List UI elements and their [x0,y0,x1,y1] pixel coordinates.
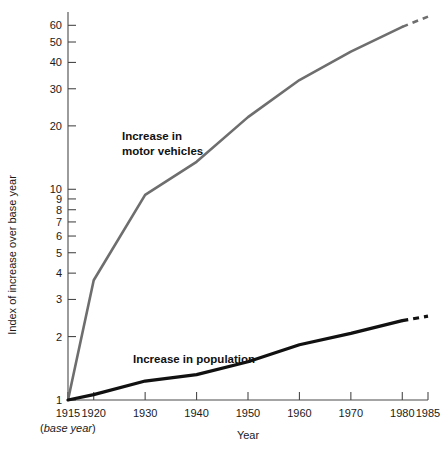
y-tick-label: 6 [56,230,62,242]
y-axis-title: Index of increase over base year [6,175,18,335]
y-tick-label: 20 [50,120,62,132]
series-line-0 [68,27,402,400]
y-tick-label: 5 [56,247,62,259]
y-tick-label: 8 [56,204,62,216]
y-tick-label: 4 [56,267,62,279]
y-axis-tick-labels: 123456789102030405060 [50,19,62,406]
series-projection-0 [402,17,428,27]
x-axis-tick-labels: 191519201930194019501960197019801985 [56,407,440,419]
y-tick-label: 50 [50,36,62,48]
y-tick-label: 3 [56,293,62,305]
base-year-note-italic: base year [44,422,94,434]
x-tick-label: 1940 [184,407,208,419]
x-axis-tick-marks [68,392,428,400]
x-tick-label: 1915 [56,407,80,419]
x-tick-label: 1930 [133,407,157,419]
x-tick-label: 1980 [390,407,414,419]
chart-container: 123456789102030405060 191519201930194019… [0,0,445,450]
y-tick-label: 2 [56,331,62,343]
y-tick-label: 30 [50,83,62,95]
y-tick-label: 1 [56,394,62,406]
x-tick-label: 1960 [287,407,311,419]
base-year-note-suffix: ) [92,422,96,434]
y-tick-label: 40 [50,56,62,68]
base-year-note: (base year) [40,422,96,434]
y-tick-label: 60 [50,19,62,31]
annotation-motor-vehicles-line2: motor vehicles [122,145,203,157]
x-tick-label: 1985 [416,407,440,419]
annotation-population: Increase in population [133,353,255,365]
x-tick-label: 1970 [339,407,363,419]
y-tick-label: 7 [56,216,62,228]
line-chart: 123456789102030405060 191519201930194019… [0,0,445,450]
series-projection-1 [402,316,428,321]
x-tick-label: 1920 [81,407,105,419]
x-tick-label: 1950 [236,407,260,419]
y-axis-tick-marks [68,25,76,400]
x-axis-title: Year [237,429,260,441]
annotation-motor-vehicles-line1: Increase in [122,130,182,142]
y-tick-label: 10 [50,183,62,195]
series-paths-group [68,17,428,400]
